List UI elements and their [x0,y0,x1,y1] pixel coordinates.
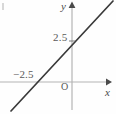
origin-label: O [61,81,68,92]
coordinate-plane-figure: 2.5 −2.5 y x O [0,0,116,114]
y-axis-label: y [61,0,66,12]
x-intercept-label: −2.5 [13,68,34,80]
corner-artifact [2,3,4,10]
plotted-line [11,1,113,111]
y-axis-arrow-icon [69,2,76,9]
graph-canvas [0,0,116,114]
x-axis-arrow-icon [106,79,112,86]
y-intercept-label: 2.5 [53,31,67,43]
x-axis-label: x [105,86,110,98]
